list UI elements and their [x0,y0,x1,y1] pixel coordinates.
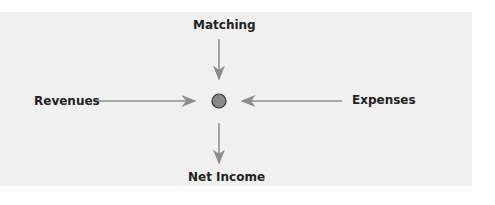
label-matching: Matching [193,18,256,32]
center-node-icon [212,94,226,108]
label-net-income: Net Income [188,170,265,184]
label-expenses: Expenses [352,93,416,107]
label-revenues: Revenues [34,94,100,108]
